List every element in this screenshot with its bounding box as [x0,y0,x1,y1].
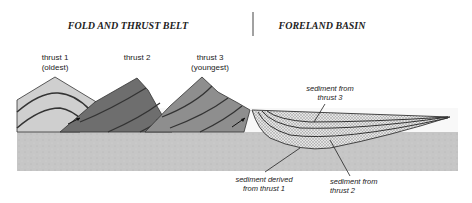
label-thrust-3-age: (youngest) [191,63,229,72]
label-sediment-thrust-3: sediment from [306,84,354,93]
header-foreland-basin: FORELAND BASIN [278,20,367,31]
label-thrust-1: thrust 1 [42,53,69,62]
label-sediment-thrust-3-b: thrust 3 [317,93,343,102]
label-thrust-3: thrust 3 [197,53,224,62]
label-sediment-thrust-1-b: from thrust 1 [243,184,285,193]
label-thrust-1-age: (oldest) [42,63,69,72]
label-sediment-thrust-2: sediment from [330,177,378,186]
label-sediment-thrust-2-b: thrust 2 [330,186,356,195]
label-sediment-thrust-1: sediment derived [235,175,293,184]
basement-block [17,132,458,171]
header-fold-thrust-belt: FOLD AND THRUST BELT [67,20,189,31]
foreland-basin-diagram: FOLD AND THRUST BELT FORELAND BASIN thru… [0,0,472,203]
thrust-3-sheet [145,77,250,132]
label-thrust-2: thrust 2 [124,53,151,62]
